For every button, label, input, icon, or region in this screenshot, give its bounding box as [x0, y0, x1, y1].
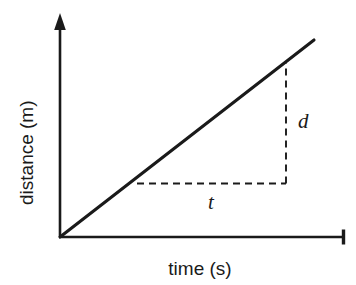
distance-time-graph-figure: distance (m) time (s) d t — [0, 0, 356, 285]
y-axis-label: distance (m) — [16, 100, 37, 205]
distance-time-plot-line — [60, 40, 314, 237]
run-label-t: t — [208, 190, 215, 214]
y-axis-arrowhead-icon — [54, 13, 66, 30]
rise-label-d: d — [298, 109, 309, 133]
x-axis-label: time (s) — [168, 258, 231, 279]
graph-canvas: distance (m) time (s) d t — [0, 0, 356, 285]
